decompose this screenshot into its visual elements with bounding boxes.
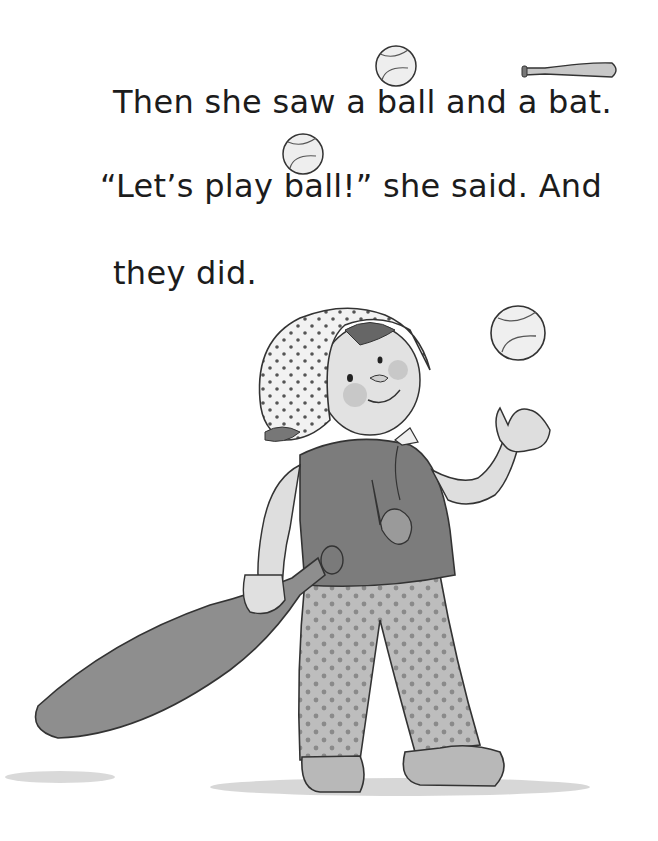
girl-figure bbox=[258, 308, 550, 792]
bat-icon bbox=[522, 63, 616, 77]
tossed-baseball-icon bbox=[491, 306, 545, 360]
baseball-icon bbox=[283, 134, 323, 174]
story-illustration bbox=[0, 0, 658, 841]
bat-illustration bbox=[36, 546, 344, 738]
baseball-icon bbox=[376, 46, 416, 86]
